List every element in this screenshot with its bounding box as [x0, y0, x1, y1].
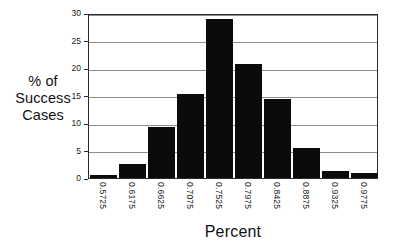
x-tick-label: 0.8425 — [272, 182, 281, 222]
bar — [206, 19, 233, 179]
y-tick-label: 5 — [59, 147, 81, 156]
x-tick-label: 0.9775 — [359, 182, 368, 222]
bar — [293, 148, 320, 178]
bar — [351, 173, 378, 179]
plot-area — [88, 14, 378, 179]
y-tick-label: 25 — [59, 37, 81, 46]
bar — [235, 64, 262, 178]
y-tick-label: 30 — [59, 9, 81, 18]
bar — [322, 171, 349, 178]
x-tick-label: 0.8875 — [301, 182, 310, 222]
y-tick-label: 0 — [59, 174, 81, 183]
x-tick-label: 0.7975 — [243, 182, 252, 222]
y-tick-mark — [84, 124, 88, 125]
x-tick-label: 0.9325 — [330, 182, 339, 222]
y-tick-label: 20 — [59, 64, 81, 73]
y-tick-mark — [84, 151, 88, 152]
x-axis-title: Percent — [88, 222, 378, 241]
y-tick-mark — [84, 69, 88, 70]
bar — [119, 164, 146, 178]
y-tick-label: 10 — [59, 119, 81, 128]
x-tick-label: 0.7075 — [185, 182, 194, 222]
bar — [264, 99, 291, 178]
y-tick-mark — [84, 41, 88, 42]
x-tick-label: 0.6175 — [127, 182, 136, 222]
x-tick-label: 0.5725 — [98, 182, 107, 222]
histogram-chart: % of Success Cases 051015202530 0.57250.… — [0, 0, 395, 249]
y-tick-mark — [84, 96, 88, 97]
x-tick-label: 0.7525 — [214, 182, 223, 222]
bar — [148, 127, 175, 178]
y-tick-mark — [84, 179, 88, 180]
y-tick-label: 15 — [59, 92, 81, 101]
bars-group — [89, 15, 377, 178]
y-tick-mark — [84, 14, 88, 15]
x-tick-label: 0.6625 — [156, 182, 165, 222]
bar — [90, 175, 117, 178]
bar — [177, 94, 204, 178]
y-axis-title-line-1: % of — [4, 73, 82, 90]
